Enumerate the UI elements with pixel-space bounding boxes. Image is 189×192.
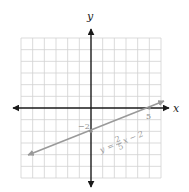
- x-axis-label: x: [173, 102, 180, 115]
- y-axis-label: y: [86, 10, 94, 23]
- y-intercept-point: [89, 130, 92, 133]
- y-intercept-label: −2: [78, 122, 90, 131]
- equation-label: y = 2 5 x − 2: [96, 126, 146, 159]
- x-intercept-label: 5: [146, 112, 151, 121]
- x-intercept-point: [148, 106, 151, 109]
- equation-lhs: y: [97, 145, 106, 156]
- coordinate-plane: x y −2 5 y = 2 5 x − 2: [0, 0, 189, 192]
- graph-line: [28, 101, 164, 155]
